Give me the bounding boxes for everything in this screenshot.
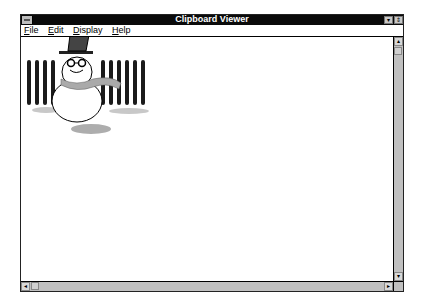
minimize-button[interactable]: ▾ xyxy=(384,16,393,24)
scroll-up-button[interactable]: ▴ xyxy=(394,37,403,46)
clipboard-viewer-window: Clipboard Viewer ▾ ⇕ File Edit Display H… xyxy=(20,14,404,292)
scroll-right-button[interactable]: ▸ xyxy=(384,282,393,291)
clipboard-content-area xyxy=(21,37,393,281)
horizontal-scrollbar[interactable]: ◂ ▸ xyxy=(21,281,393,291)
menu-file[interactable]: File xyxy=(24,25,39,35)
menu-display[interactable]: Display xyxy=(73,25,103,35)
vertical-scrollbar[interactable]: ▴ ▾ xyxy=(393,37,403,281)
title-bar[interactable]: Clipboard Viewer ▾ ⇕ xyxy=(21,15,403,25)
menu-edit[interactable]: Edit xyxy=(48,25,64,35)
menu-bar: File Edit Display Help xyxy=(21,25,403,37)
snowman-picture xyxy=(21,37,161,147)
horizontal-scroll-thumb[interactable] xyxy=(31,282,39,290)
scroll-down-button[interactable]: ▾ xyxy=(394,272,403,281)
scrollbar-corner xyxy=(393,281,403,291)
scroll-left-button[interactable]: ◂ xyxy=(21,282,30,291)
vertical-scroll-thumb[interactable] xyxy=(394,47,402,55)
menu-help[interactable]: Help xyxy=(112,25,131,35)
maximize-button[interactable]: ⇕ xyxy=(394,16,403,24)
window-title: Clipboard Viewer xyxy=(21,14,403,25)
